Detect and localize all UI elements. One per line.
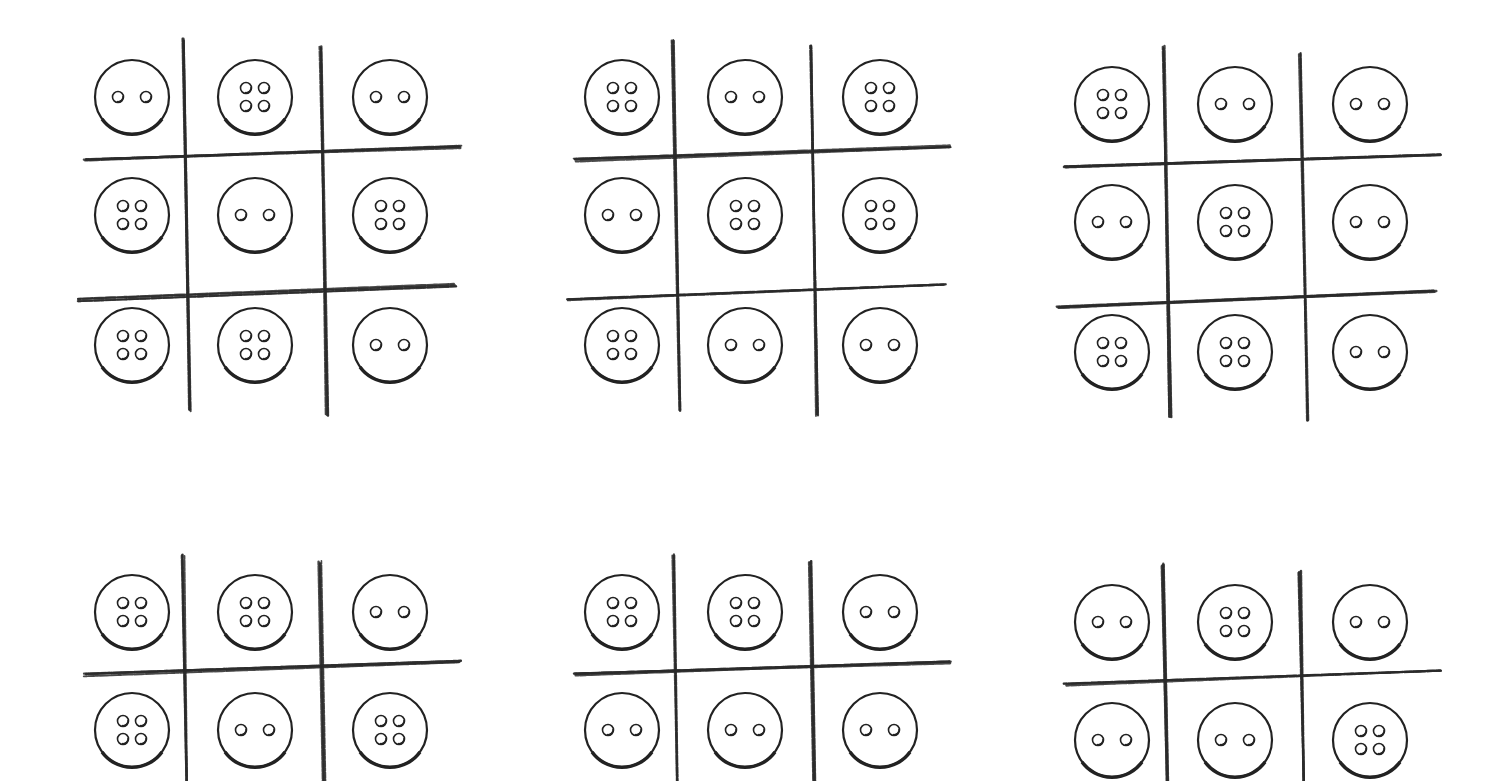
board-5-cell-r1c2[interactable] (690, 557, 800, 667)
four-hole-button-icon (708, 178, 782, 252)
tic-tac-toe-board (565, 550, 955, 781)
four-hole-button-icon (353, 178, 427, 252)
board-5-cell-r2c3[interactable] (825, 675, 935, 781)
board-3-cell-r3c3[interactable] (1315, 297, 1425, 407)
board-4-cell-r1c1[interactable] (77, 557, 187, 667)
two-hole-button-icon (1075, 185, 1149, 259)
board-5-cell-r1c1[interactable] (567, 557, 677, 667)
four-hole-button-icon (1333, 703, 1407, 777)
two-hole-button-icon (353, 60, 427, 134)
two-hole-button-icon (1198, 703, 1272, 777)
board-6-cell-r2c1[interactable] (1057, 685, 1167, 781)
tic-tac-toe-board (75, 550, 465, 781)
four-hole-button-icon (1075, 315, 1149, 389)
board-1-cell-r3c2[interactable] (200, 290, 310, 400)
board-3-cell-r3c2[interactable] (1180, 297, 1290, 407)
two-hole-button-icon (843, 308, 917, 382)
four-hole-button-icon (218, 60, 292, 134)
board-3-cell-r2c3[interactable] (1315, 167, 1425, 277)
board-5-cell-r2c1[interactable] (567, 675, 677, 781)
two-hole-button-icon (1075, 703, 1149, 777)
board-5-cell-r1c3[interactable] (825, 557, 935, 667)
four-hole-button-icon (708, 575, 782, 649)
board-5-cell-r2c2[interactable] (690, 675, 800, 781)
board-1-cell-r1c1[interactable] (77, 42, 187, 152)
two-hole-button-icon (585, 693, 659, 767)
two-hole-button-icon (1198, 67, 1272, 141)
board-4-cell-r2c1[interactable] (77, 675, 187, 781)
two-hole-button-icon (353, 575, 427, 649)
four-hole-button-icon (1198, 585, 1272, 659)
two-hole-button-icon (585, 178, 659, 252)
four-hole-button-icon (95, 693, 169, 767)
board-6-cell-r2c2[interactable] (1180, 685, 1290, 781)
board-1-cell-r1c3[interactable] (335, 42, 445, 152)
board-4-cell-r1c2[interactable] (200, 557, 310, 667)
board-1-cell-r2c1[interactable] (77, 160, 187, 270)
board-2-cell-r3c1[interactable] (567, 290, 677, 400)
four-hole-button-icon (585, 308, 659, 382)
four-hole-button-icon (843, 60, 917, 134)
board-3-cell-r1c2[interactable] (1180, 49, 1290, 159)
board-1-cell-r3c3[interactable] (335, 290, 445, 400)
four-hole-button-icon (843, 178, 917, 252)
two-hole-button-icon (1075, 585, 1149, 659)
board-6-cell-r1c1[interactable] (1057, 567, 1167, 677)
two-hole-button-icon (353, 308, 427, 382)
board-2-cell-r2c2[interactable] (690, 160, 800, 270)
four-hole-button-icon (1198, 315, 1272, 389)
board-1-cell-r2c3[interactable] (335, 160, 445, 270)
board-6-cell-r2c3[interactable] (1315, 685, 1425, 781)
two-hole-button-icon (1333, 585, 1407, 659)
board-2-cell-r1c3[interactable] (825, 42, 935, 152)
tic-tac-toe-board (75, 35, 465, 425)
board-3-cell-r3c1[interactable] (1057, 297, 1167, 407)
board-2-cell-r2c1[interactable] (567, 160, 677, 270)
board-4-cell-r1c3[interactable] (335, 557, 445, 667)
four-hole-button-icon (585, 60, 659, 134)
four-hole-button-icon (95, 308, 169, 382)
board-1-cell-r1c2[interactable] (200, 42, 310, 152)
two-hole-button-icon (1333, 185, 1407, 259)
two-hole-button-icon (95, 60, 169, 134)
board-4-cell-r2c2[interactable] (200, 675, 310, 781)
tic-tac-toe-board (1055, 560, 1445, 781)
board-4-cell-r2c3[interactable] (335, 675, 445, 781)
two-hole-button-icon (1333, 67, 1407, 141)
four-hole-button-icon (353, 693, 427, 767)
two-hole-button-icon (708, 60, 782, 134)
board-6-cell-r1c2[interactable] (1180, 567, 1290, 677)
board-3-cell-r2c2[interactable] (1180, 167, 1290, 277)
four-hole-button-icon (95, 178, 169, 252)
board-2-cell-r3c3[interactable] (825, 290, 935, 400)
four-hole-button-icon (95, 575, 169, 649)
board-6-cell-r1c3[interactable] (1315, 567, 1425, 677)
board-1-cell-r2c2[interactable] (200, 160, 310, 270)
board-3-cell-r2c1[interactable] (1057, 167, 1167, 277)
four-hole-button-icon (218, 308, 292, 382)
board-3-cell-r1c1[interactable] (1057, 49, 1167, 159)
two-hole-button-icon (218, 693, 292, 767)
two-hole-button-icon (843, 693, 917, 767)
board-2-cell-r1c1[interactable] (567, 42, 677, 152)
four-hole-button-icon (218, 575, 292, 649)
tic-tac-toe-board (565, 35, 955, 425)
four-hole-button-icon (1198, 185, 1272, 259)
two-hole-button-icon (218, 178, 292, 252)
board-2-cell-r2c3[interactable] (825, 160, 935, 270)
two-hole-button-icon (843, 575, 917, 649)
board-1-cell-r3c1[interactable] (77, 290, 187, 400)
four-hole-button-icon (1075, 67, 1149, 141)
board-2-cell-r1c2[interactable] (690, 42, 800, 152)
board-3-cell-r1c3[interactable] (1315, 49, 1425, 159)
two-hole-button-icon (708, 308, 782, 382)
two-hole-button-icon (708, 693, 782, 767)
four-hole-button-icon (585, 575, 659, 649)
two-hole-button-icon (1333, 315, 1407, 389)
tic-tac-toe-board (1055, 42, 1445, 432)
board-2-cell-r3c2[interactable] (690, 290, 800, 400)
